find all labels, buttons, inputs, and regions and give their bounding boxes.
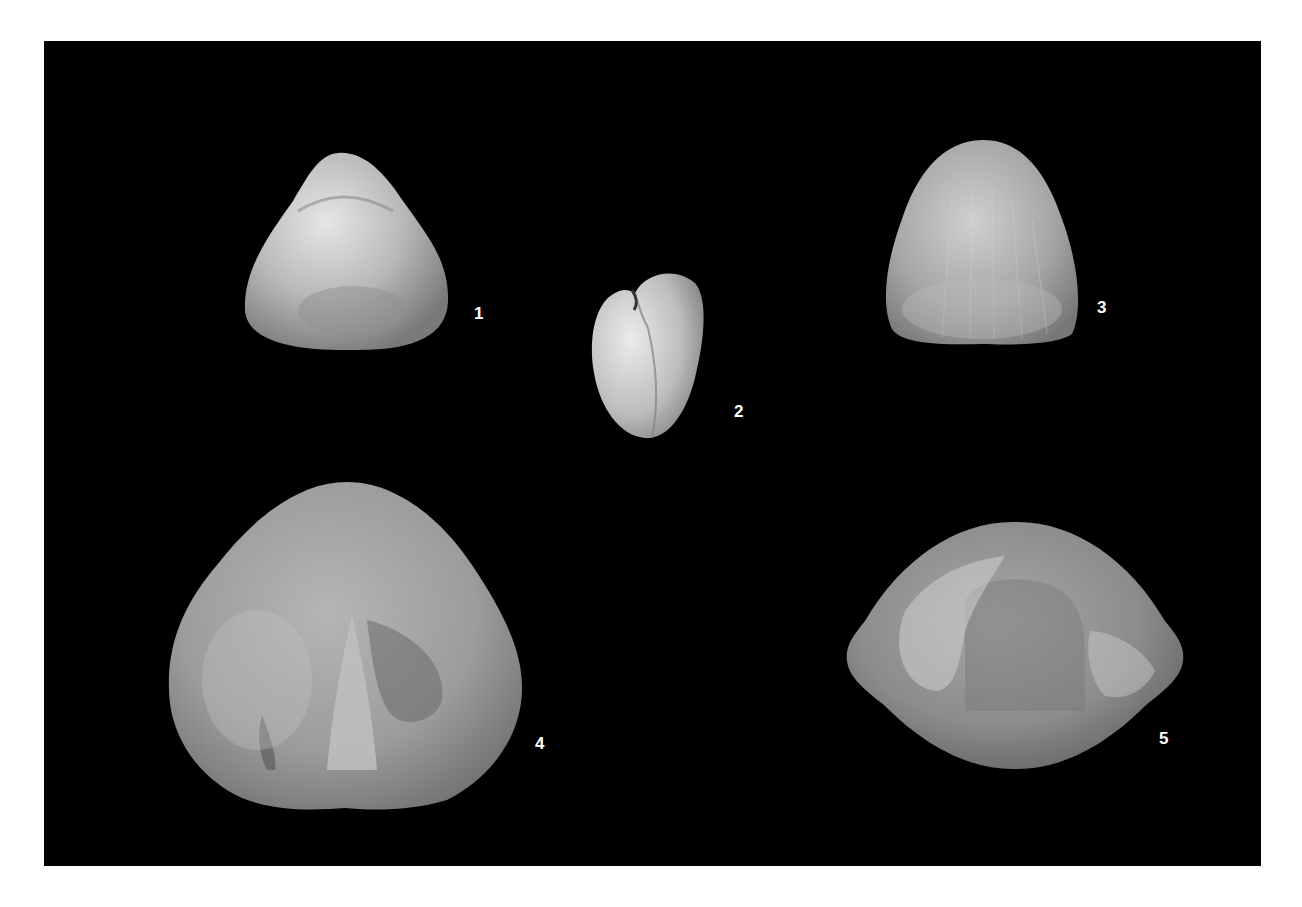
specimen-4 [167, 480, 523, 812]
fossil-plate: 1 2 [44, 41, 1261, 866]
specimen-1-image [243, 151, 449, 351]
figure-label-5: 5 [1159, 730, 1168, 747]
specimen-2 [590, 268, 705, 440]
figure-label-1: 1 [474, 305, 483, 322]
specimen-3 [882, 139, 1082, 345]
specimen-1 [243, 151, 449, 351]
figure-label-4: 4 [535, 735, 544, 752]
specimen-4-image [167, 480, 523, 812]
specimen-5-image [845, 521, 1185, 770]
specimen-5 [845, 521, 1185, 770]
figure-label-2: 2 [734, 403, 743, 420]
specimen-2-image [590, 268, 705, 440]
figure-label-3: 3 [1097, 299, 1106, 316]
specimen-3-image [882, 139, 1082, 345]
